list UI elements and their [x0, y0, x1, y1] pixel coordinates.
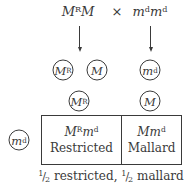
allele-base: m	[142, 63, 153, 77]
punnett-grid: MRmd Restricted Mmd Mallard	[41, 115, 182, 165]
allele-sup: d	[161, 125, 166, 134]
arrow-down-icon	[79, 26, 84, 52]
allele-sup: d	[94, 125, 99, 134]
allele-base: m	[11, 133, 22, 147]
fraction: 1/2	[121, 169, 133, 183]
allele-base: M	[54, 63, 66, 77]
caption-text: mallard	[133, 169, 184, 183]
punnett-cell: Mmd Mallard	[122, 116, 181, 164]
allele-base: M	[64, 125, 76, 139]
gamete-circle: MR	[53, 60, 74, 81]
allele-base: M	[70, 94, 82, 108]
gamete-circle: M	[87, 60, 108, 81]
gamete-circle: md	[140, 60, 161, 81]
cell-genotype: MRmd	[64, 124, 98, 140]
allele-base: M	[137, 125, 149, 139]
allele-base: M	[62, 4, 75, 19]
column-header-circle: MR	[69, 91, 90, 112]
allele-base: M	[81, 4, 94, 19]
allele-base: m	[150, 125, 161, 139]
punnett-cell: MRmd Restricted	[42, 116, 122, 164]
cell-phenotype: Restricted	[50, 140, 113, 156]
result-caption: 1/2 restricted, 1/2 mallard	[38, 169, 184, 184]
allele-base: m	[82, 125, 93, 139]
allele-sup: d	[162, 5, 167, 14]
parent-left-genotype: MRM	[62, 4, 95, 19]
arrow-down-icon	[150, 26, 155, 52]
column-header-circle: M	[140, 91, 161, 112]
parent-right-genotype: mdmd	[133, 4, 168, 19]
allele-base: m	[133, 4, 145, 19]
cross-symbol: ×	[112, 4, 123, 19]
caption-text: restricted,	[50, 169, 121, 183]
cell-phenotype: Mallard	[128, 140, 176, 156]
cell-genotype: Mmd	[137, 124, 165, 140]
allele-base: M	[144, 94, 156, 108]
fraction: 1/2	[38, 169, 50, 183]
allele-base: m	[150, 4, 162, 19]
allele-base: M	[91, 63, 103, 77]
row-header-circle: md	[9, 130, 30, 151]
